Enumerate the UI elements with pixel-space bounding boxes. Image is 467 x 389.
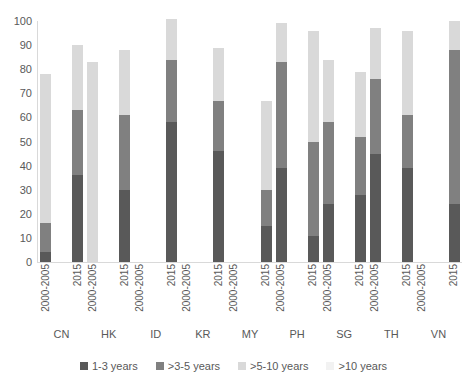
bar-segment-1-3-years [213, 151, 224, 262]
x-axis-tick-labels: 2000-200520152000-200520152000-200520152… [38, 264, 462, 326]
group-label-th: TH [384, 328, 399, 341]
bar-segment-1-3-years [308, 236, 319, 263]
bar-segment-1-3-years [119, 190, 130, 262]
group-label-hk: HK [101, 328, 116, 341]
bar-hk-2000-2005[interactable] [87, 62, 98, 262]
bar-segment-1-3-years [261, 226, 272, 262]
x-tick-label-8: 2000-2005 [229, 264, 239, 312]
bar-id-2015[interactable] [166, 19, 177, 262]
bar-segment-1-3-years [166, 122, 177, 262]
x-tick-label-11: 2015 [308, 264, 318, 286]
group-label-vn: VN [431, 328, 446, 341]
bar-segment--5-10-years [87, 62, 98, 262]
x-tick-label-17: 2015 [449, 264, 459, 286]
y-axis: 0102030405060708090100 [0, 0, 36, 283]
x-tick-label-7: 2015 [214, 264, 224, 286]
group-label-my: MY [242, 328, 259, 341]
group-label-kr: KR [195, 328, 210, 341]
x-tick-label-0: 2000-2005 [41, 264, 51, 312]
bar-sg-2000-2005[interactable] [323, 60, 334, 262]
group-label-id: ID [150, 328, 161, 341]
bar-segment--3-5-years [261, 190, 272, 226]
bar-segment-1-3-years [370, 154, 381, 262]
bar-segment-1-3-years [323, 204, 334, 262]
legend-item--3-5-years[interactable]: >3-5 years [156, 360, 220, 372]
legend-item-1-3-years[interactable]: 1-3 years [80, 360, 138, 372]
plot-area [38, 21, 462, 262]
x-tick-label-10: 2000-2005 [276, 264, 286, 312]
y-axis-tick-90: 90 [20, 40, 32, 51]
legend-label: 1-3 years [92, 360, 138, 372]
x-tick-label-15: 2015 [402, 264, 412, 286]
bar-segment--5-10-years [449, 21, 460, 50]
bar-segment--5-10-years [323, 60, 334, 123]
bar-segment--5-10-years [402, 31, 413, 115]
bar-sg-2015[interactable] [355, 72, 366, 262]
chart-legend: 1-3 years>3-5 years>5-10 years>10 years [0, 360, 467, 372]
group-label-cn: CN [54, 328, 70, 341]
legend-item--10-years[interactable]: >10 years [326, 360, 387, 372]
legend-item--5-10-years[interactable]: >5-10 years [238, 360, 308, 372]
bar-segment-1-3-years [40, 252, 51, 262]
x-tick-label-1: 2015 [73, 264, 83, 286]
x-tick-label-5: 2015 [167, 264, 177, 286]
stacked-bar-chart: 0102030405060708090100 2000-200520152000… [0, 0, 467, 389]
legend-swatch-icon [238, 362, 246, 370]
y-axis-tick-0: 0 [26, 257, 32, 268]
bar-segment-1-3-years [72, 175, 83, 262]
bar-segment--5-10-years [276, 23, 287, 62]
x-tick-label-4: 2000-2005 [135, 264, 145, 312]
bar-segment--5-10-years [213, 48, 224, 101]
x-axis-group-labels: CNHKIDKRMYPHSGTHVN [38, 328, 462, 344]
bar-segment--3-5-years [166, 60, 177, 123]
group-label-ph: PH [289, 328, 304, 341]
bar-segment--5-10-years [119, 50, 130, 115]
x-tick-label-6: 2000-2005 [182, 264, 192, 312]
bar-segment-1-3-years [449, 204, 460, 262]
bar-cn-2015[interactable] [72, 45, 83, 262]
x-tick-label-3: 2015 [120, 264, 130, 286]
x-tick-label-13: 2015 [355, 264, 365, 286]
bar-hk-2015[interactable] [119, 50, 130, 262]
bar-segment--5-10-years [308, 31, 319, 142]
bar-segment--3-5-years [119, 115, 130, 190]
bar-segment--5-10-years [355, 72, 366, 137]
bar-th-2000-2005[interactable] [370, 28, 381, 262]
y-axis-tick-40: 40 [20, 160, 32, 171]
bar-segment--5-10-years [370, 28, 381, 79]
bar-segment--3-5-years [402, 115, 413, 168]
x-tick-label-12: 2000-2005 [323, 264, 333, 312]
y-axis-tick-70: 70 [20, 88, 32, 99]
legend-swatch-icon [156, 362, 164, 370]
legend-swatch-icon [80, 362, 88, 370]
legend-label: >5-10 years [250, 360, 308, 372]
bar-segment--3-5-years [308, 142, 319, 236]
y-axis-tick-30: 30 [20, 184, 32, 195]
x-tick-label-2: 2000-2005 [88, 264, 98, 312]
bar-kr-2015[interactable] [213, 48, 224, 262]
bar-ph-2015[interactable] [308, 31, 319, 262]
y-axis-tick-50: 50 [20, 136, 32, 147]
bar-my-2015[interactable] [261, 101, 272, 262]
x-tick-label-16: 2000-2005 [417, 264, 427, 312]
x-tick-label-14: 2000-2005 [370, 264, 380, 312]
bar-ph-2000-2005[interactable] [276, 23, 287, 262]
legend-label: >3-5 years [168, 360, 220, 372]
x-tick-label-9: 2015 [261, 264, 271, 286]
legend-swatch-icon [326, 362, 334, 370]
bar-segment--3-5-years [40, 223, 51, 252]
bar-segment--3-5-years [323, 122, 334, 204]
y-axis-tick-80: 80 [20, 64, 32, 75]
bar-segment-1-3-years [276, 168, 287, 262]
bar-segment--5-10-years [40, 74, 51, 223]
bar-segment--5-10-years [261, 101, 272, 190]
bar-cn-2000-2005[interactable] [40, 74, 51, 262]
group-label-sg: SG [336, 328, 352, 341]
bar-vn-2015[interactable] [449, 21, 460, 262]
bar-segment-1-3-years [402, 168, 413, 262]
bar-segment--3-5-years [72, 110, 83, 175]
bar-th-2015[interactable] [402, 31, 413, 262]
y-axis-tick-60: 60 [20, 112, 32, 123]
bar-segment--3-5-years [449, 50, 460, 204]
bar-segment--3-5-years [355, 137, 366, 195]
